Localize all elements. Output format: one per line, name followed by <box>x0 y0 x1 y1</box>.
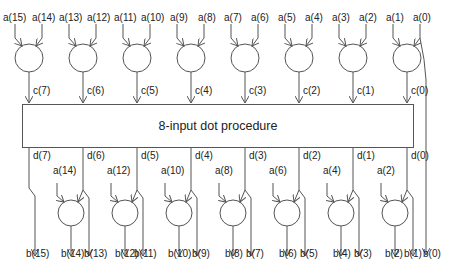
label-a12: a(12) <box>87 12 110 23</box>
d-into-adder-wire <box>78 148 83 202</box>
label-c6: c(6) <box>87 85 104 96</box>
top-adder-circle-icon <box>339 44 367 72</box>
label-a9: a(9) <box>170 12 188 23</box>
a-input-wire <box>219 183 226 202</box>
d-pass-wire <box>299 190 305 256</box>
label-bottom-a6: a(6) <box>269 165 287 176</box>
label-b9: b(9) <box>192 248 210 259</box>
label-a7: a(7) <box>224 12 242 23</box>
label-b10: b(10) <box>168 248 191 259</box>
bottom-adder-circle-icon <box>220 200 246 226</box>
d-pass-wire <box>191 190 197 256</box>
top-adder-circle-icon <box>15 44 43 72</box>
label-a14: a(14) <box>32 12 55 23</box>
bypass-wire <box>420 38 426 255</box>
input-wire <box>123 24 130 46</box>
input-wire <box>252 24 258 46</box>
a-input-wire <box>381 183 388 202</box>
bottom-adder-circle-icon <box>328 200 354 226</box>
label-bottom-a8: a(8) <box>215 165 233 176</box>
label-bottom-a12: a(12) <box>107 165 130 176</box>
top-adder-circle-icon <box>123 44 151 72</box>
label-b8: b(8) <box>225 248 243 259</box>
label-b3: b(3) <box>354 248 372 259</box>
input-wire <box>69 24 76 46</box>
label-a5: a(5) <box>278 12 296 23</box>
label-d3: d(3) <box>249 150 267 161</box>
d-pass-wire <box>83 190 89 256</box>
d-into-adder-wire <box>186 148 191 202</box>
d-into-adder-wire <box>240 148 245 202</box>
label-b2: b(2) <box>385 248 403 259</box>
d-pass-wire <box>137 190 143 256</box>
label-b5: b(5) <box>300 248 318 259</box>
input-wire <box>90 24 96 46</box>
d-into-adder-wire <box>348 148 353 202</box>
label-a15: a(15) <box>3 12 26 23</box>
label-a8: a(8) <box>198 12 216 23</box>
d-output-wire <box>29 148 35 256</box>
label-c7: c(7) <box>33 85 50 96</box>
input-wire <box>144 24 150 46</box>
input-wire <box>177 24 184 46</box>
label-a0: a(0) <box>413 12 431 23</box>
label-a4: a(4) <box>305 12 323 23</box>
label-c0: c(0) <box>411 85 428 96</box>
label-a1: a(1) <box>386 12 404 23</box>
dot-procedure-box: 8-input dot procedure <box>22 104 414 148</box>
a-input-wire <box>165 183 172 202</box>
label-bottom-a14: a(14) <box>53 165 76 176</box>
label-d1: d(1) <box>357 150 375 161</box>
bottom-adder-circle-icon <box>58 200 84 226</box>
label-b1: b(1) <box>404 248 422 259</box>
bottom-adder-circle-icon <box>112 200 138 226</box>
label-d2: d(2) <box>303 150 321 161</box>
label-c3: c(3) <box>249 85 266 96</box>
input-wire <box>231 24 238 46</box>
label-a3: a(3) <box>332 12 350 23</box>
a-input-wire <box>327 183 334 202</box>
input-wire <box>339 24 346 46</box>
label-a10: a(10) <box>141 12 164 23</box>
label-d7: d(7) <box>33 150 51 161</box>
label-d4: d(4) <box>195 150 213 161</box>
label-b15: b(15) <box>26 248 49 259</box>
d-into-adder-wire <box>402 148 407 202</box>
label-a13: a(13) <box>59 12 82 23</box>
a-input-wire <box>111 183 118 202</box>
d-pass-wire <box>353 190 359 256</box>
input-wire <box>360 24 366 46</box>
d-into-adder-wire <box>294 148 299 202</box>
label-b0: b(0) <box>423 248 441 259</box>
dot-procedure-diagram: 8-input dot procedure a(15) a(14) a(13) … <box>0 0 449 268</box>
input-wire <box>36 24 42 46</box>
label-c4: c(4) <box>195 85 212 96</box>
d-into-adder-wire <box>132 148 137 202</box>
bottom-adder-circle-icon <box>274 200 300 226</box>
label-c2: c(2) <box>303 85 320 96</box>
input-wire <box>306 24 312 46</box>
label-c1: c(1) <box>357 85 374 96</box>
label-b13: b(13) <box>84 248 107 259</box>
top-adder-circle-icon <box>69 44 97 72</box>
d-pass-wire <box>245 190 251 256</box>
top-adder-circle-icon <box>285 44 313 72</box>
input-wire <box>198 24 204 46</box>
input-wire <box>414 24 420 46</box>
label-b14: b(14) <box>61 248 84 259</box>
label-a2: a(2) <box>359 12 377 23</box>
a-input-wire <box>57 183 64 202</box>
label-b11: b(11) <box>134 248 157 259</box>
d-pass-wire <box>407 190 413 256</box>
box-title: 8-input dot procedure <box>23 119 413 133</box>
label-b7: b(7) <box>246 248 264 259</box>
label-b6: b(6) <box>279 248 297 259</box>
label-bottom-a2: a(2) <box>377 165 395 176</box>
bottom-adder-circle-icon <box>166 200 192 226</box>
label-bottom-a4: a(4) <box>323 165 341 176</box>
bottom-adder-circle-icon <box>382 200 408 226</box>
label-d5: d(5) <box>141 150 159 161</box>
label-c5: c(5) <box>141 85 158 96</box>
label-d0: d(0) <box>411 150 429 161</box>
label-a6: a(6) <box>251 12 269 23</box>
